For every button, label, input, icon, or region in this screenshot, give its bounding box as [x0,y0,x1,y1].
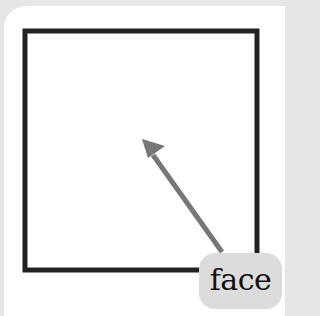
face-label-box: face [199,253,282,309]
square-shape [25,31,257,270]
arrow-line [153,155,222,252]
face-label: face [210,262,272,297]
